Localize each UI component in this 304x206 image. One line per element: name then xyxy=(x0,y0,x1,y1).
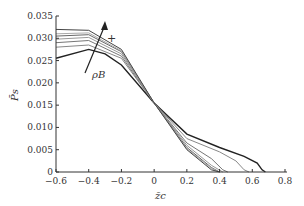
x-tick-label: −0.4 xyxy=(78,176,100,186)
y-tick-label: 0.005 xyxy=(27,145,53,155)
y-tick-label: 0.035 xyxy=(27,11,53,21)
x-tick-label: 0.8 xyxy=(278,176,293,186)
y-tick-label: 0.020 xyxy=(27,78,53,88)
y-tick-label: 0.010 xyxy=(27,122,53,132)
series-line xyxy=(56,29,220,172)
series-lines xyxy=(56,29,265,172)
axes: −0.6−0.4−0.200.20.40.60.800.0050.0100.01… xyxy=(9,11,292,201)
x-tick-label: 0.6 xyxy=(245,176,260,186)
x-tick-label: 0 xyxy=(151,176,157,186)
plus-annotation: + xyxy=(107,32,116,45)
series-line xyxy=(56,45,249,172)
rho-label: ρB xyxy=(91,69,105,80)
x-tick-label: 0.4 xyxy=(212,176,227,186)
x-axis-label: z̄c xyxy=(154,190,166,201)
x-tick-label: −0.2 xyxy=(110,176,132,186)
y-tick-label: 0.030 xyxy=(27,33,53,43)
series-line xyxy=(56,41,228,173)
line-chart: −0.6−0.4−0.200.20.40.60.800.0050.0100.01… xyxy=(0,0,304,206)
y-tick-label: 0.025 xyxy=(27,56,53,66)
y-tick-label: 0 xyxy=(47,167,53,177)
y-axis-label: P̄s xyxy=(9,89,20,102)
x-tick-label: 0.2 xyxy=(180,176,194,186)
series-line xyxy=(56,33,220,172)
y-tick-label: 0.015 xyxy=(27,100,53,110)
rho-arrow xyxy=(85,21,108,73)
series-line xyxy=(56,37,223,172)
x-tick-label: −0.6 xyxy=(45,176,67,186)
